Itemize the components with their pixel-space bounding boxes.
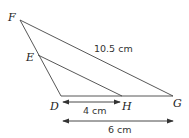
segment-EH xyxy=(38,55,122,96)
similar-triangles-diagram: F E D H G 10.5 cm 4 cm 6 cm xyxy=(0,0,189,138)
point-label-D: D xyxy=(49,100,59,113)
measurement-DG: 6 cm xyxy=(108,124,132,135)
measurement-DH: 4 cm xyxy=(83,105,107,116)
point-label-G: G xyxy=(173,97,182,110)
point-label-F: F xyxy=(7,11,16,24)
point-label-E: E xyxy=(25,51,34,64)
point-label-H: H xyxy=(121,100,132,113)
segment-FG xyxy=(20,20,173,96)
measurement-FG: 10.5 cm xyxy=(94,43,133,54)
